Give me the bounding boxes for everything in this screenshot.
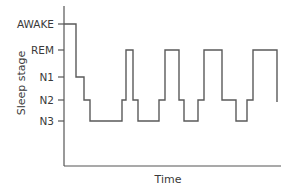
ytick-label-rem: REM xyxy=(31,44,54,56)
ytick-label-n1: N1 xyxy=(39,71,54,83)
sleep-stage-line xyxy=(64,24,277,121)
y-ticks xyxy=(58,24,64,121)
ytick-label-awake: AWAKE xyxy=(17,18,54,30)
ytick-label-n2: N2 xyxy=(39,94,54,106)
ytick-label-n3: N3 xyxy=(39,115,54,127)
y-axis-label: Sleep stage xyxy=(15,50,28,115)
hypnogram-chart: AWAKE REM N1 N2 N3 Sleep stage Time xyxy=(0,0,296,193)
x-axis-label: Time xyxy=(154,173,182,186)
